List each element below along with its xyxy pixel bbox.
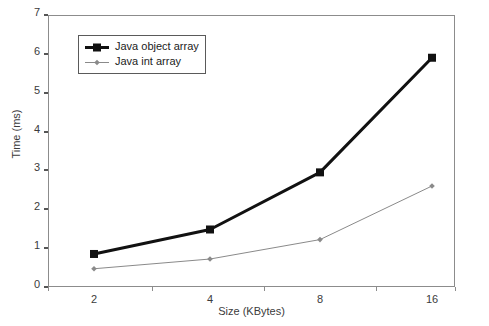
y-tick-mark (44, 92, 48, 94)
y-axis: 01234567 (0, 0, 48, 302)
x-tick-mark (376, 287, 377, 291)
x-tick-label: 16 (412, 294, 452, 305)
y-axis-title: Time (ms) (10, 94, 22, 174)
y-tick-label: 7 (34, 7, 40, 18)
y-tick-mark (44, 208, 48, 210)
x-tick-mark (264, 287, 265, 291)
y-tick-mark (44, 14, 48, 16)
x-tick-label: 8 (300, 294, 340, 305)
x-tick-label: 2 (74, 294, 114, 305)
y-tick-label: 4 (34, 124, 40, 135)
y-tick-mark (44, 131, 48, 133)
legend-item-1: Java object array (84, 39, 199, 54)
legend: Java object arrayJava int array (78, 35, 206, 74)
x-tick-mark (48, 287, 49, 291)
legend-diamond-marker-icon (84, 55, 110, 68)
y-tick-label: 5 (34, 85, 40, 96)
legend-item-2: Java int array (84, 54, 199, 69)
legend-square-marker-icon (84, 40, 110, 53)
x-tick-label: 4 (190, 294, 230, 305)
x-axis-title: Size (KBytes) (48, 305, 455, 317)
y-tick-mark (44, 169, 48, 171)
y-tick-label: 3 (34, 162, 40, 173)
x-tick-mark (455, 287, 456, 291)
y-tick-label: 1 (34, 240, 40, 251)
y-tick-label: 0 (34, 279, 40, 290)
y-tick-mark (44, 53, 48, 55)
y-tick-label: 2 (34, 201, 40, 212)
legend-label: Java int array (115, 55, 181, 68)
chart-figure: 01234567 Time (ms) 24816 Size (KBytes) J… (0, 0, 489, 326)
y-tick-mark (44, 247, 48, 249)
x-tick-mark (152, 287, 153, 291)
y-tick-label: 6 (34, 46, 40, 57)
legend-label: Java object array (115, 40, 199, 53)
